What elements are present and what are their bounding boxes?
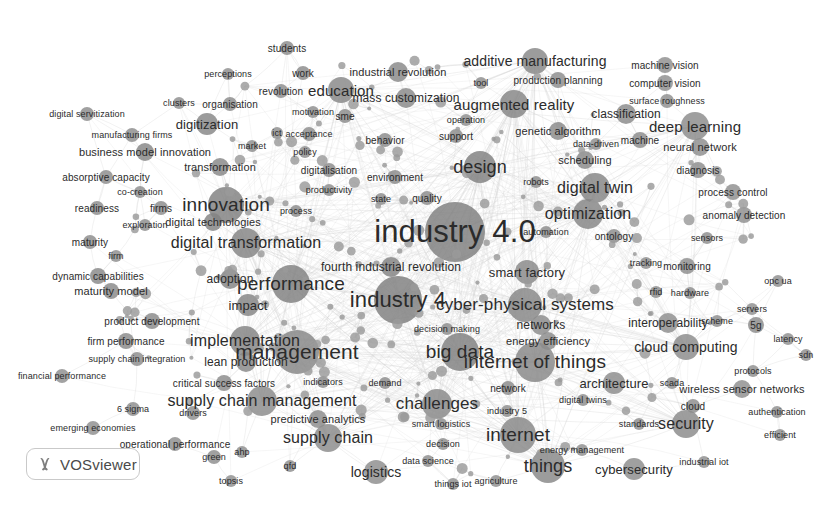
network-node[interactable] [525, 280, 532, 287]
network-node[interactable] [701, 232, 713, 244]
network-node[interactable] [503, 227, 511, 235]
network-node[interactable] [515, 260, 539, 284]
network-node[interactable] [544, 262, 551, 269]
network-node[interactable] [679, 258, 695, 274]
network-node[interactable] [475, 77, 487, 89]
network-node[interactable] [207, 450, 221, 464]
network-node[interactable] [640, 348, 651, 359]
network-node[interactable] [748, 233, 754, 239]
network-node[interactable] [225, 183, 229, 187]
network-node[interactable] [367, 338, 378, 349]
network-node[interactable] [236, 446, 248, 458]
network-node[interactable] [452, 249, 461, 258]
network-node[interactable] [334, 241, 344, 251]
network-node[interactable] [633, 252, 637, 256]
network-node[interactable] [399, 196, 408, 205]
network-node[interactable] [633, 418, 645, 430]
network-node[interactable] [83, 235, 97, 249]
network-node[interactable] [679, 344, 686, 351]
network-node[interactable] [357, 312, 365, 320]
network-node[interactable] [385, 398, 390, 403]
network-node[interactable] [193, 372, 200, 379]
network-node[interactable] [230, 136, 236, 142]
network-node[interactable] [555, 379, 563, 387]
network-node[interactable] [321, 336, 330, 345]
network-node[interactable] [450, 166, 454, 170]
network-node[interactable] [698, 456, 710, 468]
network-node[interactable] [736, 207, 752, 223]
network-node[interactable] [317, 376, 329, 388]
network-node[interactable] [576, 151, 594, 169]
network-node[interactable] [80, 107, 94, 121]
network-node[interactable] [493, 136, 500, 143]
network-node[interactable] [550, 72, 566, 88]
network-node[interactable] [375, 203, 381, 209]
network-node[interactable] [602, 205, 607, 210]
network-node[interactable] [522, 48, 548, 74]
network-node[interactable] [225, 475, 237, 487]
network-node[interactable] [499, 130, 504, 135]
network-node[interactable] [617, 209, 624, 216]
network-node[interactable] [387, 341, 395, 349]
network-node[interactable] [591, 113, 595, 117]
network-node[interactable] [253, 343, 264, 354]
network-node[interactable] [666, 377, 678, 389]
network-node[interactable] [131, 225, 139, 233]
network-node[interactable] [472, 400, 480, 408]
network-node[interactable] [771, 406, 783, 418]
network-node[interactable] [388, 171, 396, 179]
network-node[interactable] [374, 276, 422, 324]
network-node[interactable] [455, 127, 460, 132]
network-node[interactable] [589, 200, 599, 210]
network-node[interactable] [284, 460, 296, 472]
network-node[interactable] [274, 333, 284, 343]
network-node[interactable] [90, 268, 106, 284]
network-node[interactable] [196, 113, 218, 135]
network-node[interactable] [725, 201, 732, 208]
network-node[interactable] [154, 201, 168, 215]
network-node[interactable] [441, 333, 479, 371]
network-node[interactable] [222, 68, 234, 80]
network-node[interactable] [317, 155, 328, 166]
network-node[interactable] [216, 274, 222, 280]
network-node[interactable] [533, 201, 544, 212]
network-node[interactable] [603, 372, 625, 394]
network-node[interactable] [243, 406, 253, 416]
network-node[interactable] [304, 367, 313, 376]
network-node[interactable] [657, 57, 673, 73]
network-node[interactable] [302, 276, 307, 281]
network-node[interactable] [629, 217, 639, 227]
network-node[interactable] [328, 77, 354, 103]
network-node[interactable] [483, 240, 489, 246]
network-node[interactable] [448, 226, 455, 233]
network-node[interactable] [327, 304, 333, 310]
network-node[interactable] [501, 381, 515, 395]
network-node[interactable] [554, 320, 558, 324]
network-node[interactable] [364, 460, 388, 484]
network-node[interactable] [463, 306, 471, 314]
network-node[interactable] [516, 311, 524, 319]
network-node[interactable] [173, 97, 185, 109]
network-node[interactable] [189, 356, 193, 360]
network-node[interactable] [648, 312, 652, 316]
network-node[interactable] [392, 146, 403, 157]
network-node[interactable] [468, 376, 473, 381]
network-node[interactable] [506, 455, 510, 459]
network-node[interactable] [236, 352, 256, 372]
network-node[interactable] [246, 140, 258, 152]
network-node[interactable] [339, 314, 344, 319]
network-node[interactable] [464, 151, 496, 183]
vosviewer-badge[interactable]: VOSviewer [26, 448, 140, 480]
network-node[interactable] [314, 340, 322, 348]
network-node[interactable] [258, 250, 265, 257]
network-node[interactable] [286, 136, 297, 147]
network-node[interactable] [282, 200, 288, 206]
network-node[interactable] [224, 266, 232, 274]
network-node[interactable] [261, 300, 269, 308]
vosviewer-network-canvas[interactable]: industry 4.0industry 4managementperforma… [0, 0, 839, 518]
network-node[interactable] [225, 187, 234, 196]
network-node[interactable] [539, 332, 557, 350]
network-node[interactable] [348, 99, 359, 110]
network-node[interactable] [253, 160, 257, 164]
network-node[interactable] [139, 219, 151, 231]
